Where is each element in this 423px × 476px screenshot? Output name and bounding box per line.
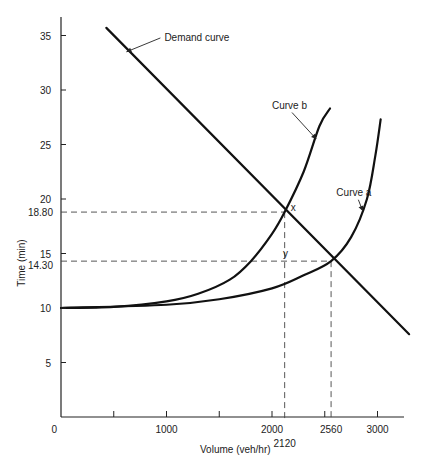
reference-lines: xy bbox=[61, 202, 331, 420]
x-tick-label: 1000 bbox=[155, 424, 178, 435]
x-ref-label: 2560 bbox=[320, 424, 343, 435]
chart: xy 510152025303518.8014.3010002000300002… bbox=[0, 0, 423, 476]
y-tick-label: 30 bbox=[40, 85, 52, 96]
point-label-y: y bbox=[283, 248, 288, 259]
series-group bbox=[61, 28, 409, 334]
demand-curve-annotation-label: Demand curve bbox=[164, 32, 229, 43]
y-ref-label: 18.80 bbox=[28, 207, 53, 218]
demand-curve-annotation-arrow bbox=[126, 38, 160, 52]
y-tick-label: 35 bbox=[40, 31, 52, 42]
point-label-x: x bbox=[291, 202, 296, 213]
x-axis-title: Volume (veh/hr) bbox=[200, 444, 271, 455]
y-ref-label: 14.30 bbox=[28, 260, 53, 271]
x-tick-label: 3000 bbox=[366, 424, 389, 435]
y-tick-label: 5 bbox=[45, 358, 51, 369]
curve-b-annotation-arrow bbox=[292, 113, 316, 140]
curve-b-annotation-label: Curve b bbox=[272, 100, 307, 111]
x-origin-label: 0 bbox=[51, 424, 57, 435]
annotations: Demand curveCurve bCurve a bbox=[126, 32, 371, 211]
y-tick-label: 10 bbox=[40, 303, 52, 314]
x-tick-label: 2000 bbox=[261, 424, 284, 435]
axes bbox=[61, 17, 404, 417]
curve-a-line bbox=[61, 119, 381, 308]
y-tick-label: 25 bbox=[40, 140, 52, 151]
ticks: 510152025303518.8014.3010002000300002120… bbox=[28, 31, 389, 450]
x-ref-label: 2120 bbox=[274, 438, 297, 449]
y-tick-label: 15 bbox=[40, 249, 52, 260]
curve-b-line bbox=[61, 109, 330, 308]
y-tick-label: 20 bbox=[40, 194, 52, 205]
curve-a-annotation-label: Curve a bbox=[336, 187, 371, 198]
demand-curve-line bbox=[106, 28, 409, 334]
y-axis-title: Time (min) bbox=[16, 239, 27, 286]
